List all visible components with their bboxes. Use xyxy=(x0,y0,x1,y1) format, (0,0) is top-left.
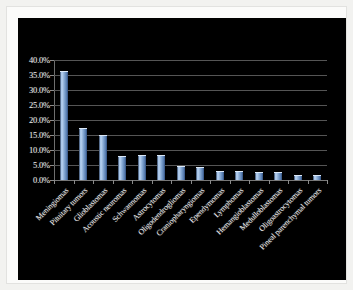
y-axis-tick xyxy=(50,135,54,136)
x-axis-labels: MeningiomasPituitary tumorsGlioblastomas… xyxy=(18,184,346,280)
bar xyxy=(138,155,146,180)
y-axis-tick xyxy=(50,75,54,76)
y-axis-tick xyxy=(50,120,54,121)
gridline xyxy=(54,135,327,136)
y-axis-tick-label: 15.0% xyxy=(29,130,50,140)
gridline xyxy=(54,75,327,76)
gridline xyxy=(54,90,327,91)
bar xyxy=(157,155,165,180)
y-axis-tick-label: 25.0% xyxy=(29,100,50,110)
bar xyxy=(118,156,126,180)
bar xyxy=(99,135,107,180)
plot-area xyxy=(54,60,327,180)
y-axis-tick-label: 5.0% xyxy=(33,160,50,170)
paper-frame: 40.0%35.0%30.0%25.0%20.0%15.0%10.0%5.0%0… xyxy=(6,6,347,284)
bar xyxy=(60,71,68,180)
y-axis-tick-label: 10.0% xyxy=(29,145,50,155)
y-axis-tick xyxy=(50,60,54,61)
chart-page: 40.0%35.0%30.0%25.0%20.0%15.0%10.0%5.0%0… xyxy=(0,0,353,290)
bar xyxy=(274,172,282,180)
y-axis-tick xyxy=(50,105,54,106)
gridline xyxy=(54,105,327,106)
bar xyxy=(79,128,87,180)
bar xyxy=(196,167,204,180)
y-axis-tick-label: 40.0% xyxy=(29,55,50,65)
bar xyxy=(235,171,243,180)
y-axis-tick xyxy=(50,180,54,181)
y-axis-tick xyxy=(50,90,54,91)
bar xyxy=(255,172,263,180)
y-axis-tick xyxy=(50,165,54,166)
gridline xyxy=(54,150,327,151)
y-axis-tick-label: 35.0% xyxy=(29,70,50,80)
gridline xyxy=(54,165,327,166)
y-axis-tick xyxy=(50,150,54,151)
y-axis-tick-label: 30.0% xyxy=(29,85,50,95)
y-axis-tick-label: 20.0% xyxy=(29,115,50,125)
gridline xyxy=(54,60,327,61)
bar xyxy=(216,171,224,180)
chart-panel: 40.0%35.0%30.0%25.0%20.0%15.0%10.0%5.0%0… xyxy=(18,18,346,280)
bar xyxy=(177,166,185,180)
gridline xyxy=(54,120,327,121)
y-axis-labels: 40.0%35.0%30.0%25.0%20.0%15.0%10.0%5.0%0… xyxy=(18,60,52,180)
